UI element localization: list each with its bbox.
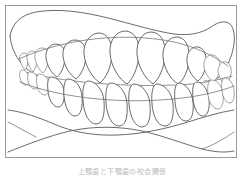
lower-tooth-premolar-r2: [193, 82, 210, 116]
lower-tooth-canine: [83, 81, 104, 124]
lower-tooth-premolar-r1: [175, 83, 194, 121]
figure-frame: [5, 5, 237, 158]
lower-tooth-central-incisor-2: [152, 84, 173, 126]
upper-tooth-premolar-1: [63, 40, 86, 79]
upper-tooth-canine: [84, 33, 112, 83]
lower-tooth-lateral-incisor: [106, 83, 127, 126]
upper-tooth-lateral-incisor: [110, 31, 139, 84]
figure-root: 上顎歯と下顎歯の咬合関係: [0, 0, 244, 176]
lower-tooth-central-incisor-1: [129, 84, 150, 127]
upper-tooth-central-incisor-2: [163, 37, 189, 84]
lower-tooth-premolar-2: [48, 77, 65, 107]
dental-illustration: [6, 6, 236, 157]
figure-caption: 上顎歯と下顎歯の咬合関係: [0, 168, 244, 176]
upper-tooth-premolar-2: [46, 44, 65, 77]
lower-tooth-molar-r1: [208, 80, 224, 109]
lower-tooth-premolar-1: [64, 79, 83, 116]
